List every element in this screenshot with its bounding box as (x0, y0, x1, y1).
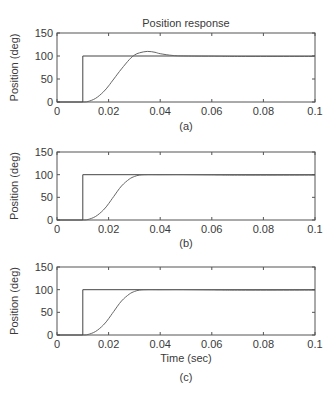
x-tick-label: 0.1 (307, 338, 322, 350)
x-tick-label: 0.04 (149, 338, 170, 350)
x-tick-label: 0.04 (149, 223, 170, 235)
y-axis-label: Position (deg) (8, 152, 20, 220)
caption-a: (a) (179, 120, 192, 132)
y-tick-label: 100 (35, 169, 53, 181)
response-curve (83, 290, 315, 335)
y-tick-label: 100 (35, 284, 53, 296)
y-tick-label: 50 (41, 73, 53, 85)
panel-b: 00.020.040.060.080.1050100150Position (d… (8, 146, 323, 235)
x-tick-label: 0.02 (98, 105, 119, 117)
panel-c: 00.020.040.060.080.1050100150Position (d… (8, 261, 323, 350)
x-tick-label: 0.02 (98, 223, 119, 235)
x-tick-label: 0.08 (253, 105, 274, 117)
x-tick-label: 0.1 (307, 105, 322, 117)
x-tick-label: 0.1 (307, 223, 322, 235)
y-axis-label: Position (deg) (8, 34, 20, 102)
x-tick-label: 0.02 (98, 338, 119, 350)
response-curve (83, 51, 315, 102)
x-tick-label: 0.06 (201, 105, 222, 117)
reference-step-line (57, 56, 315, 102)
reference-step-line (57, 290, 315, 335)
y-axis-label: Position (deg) (8, 267, 20, 335)
x-tick-label: 0.06 (201, 223, 222, 235)
caption-c: (c) (180, 371, 193, 383)
x-tick-label: 0 (54, 223, 60, 235)
response-curve (83, 175, 315, 220)
x-tick-label: 0 (54, 105, 60, 117)
y-tick-label: 0 (47, 214, 53, 226)
y-tick-label: 100 (35, 50, 53, 62)
axes-frame (57, 267, 315, 335)
chart-title: Position response (142, 17, 229, 29)
axes-frame (57, 33, 315, 102)
x-tick-label: 0.06 (201, 338, 222, 350)
x-tick-label: 0 (54, 338, 60, 350)
y-tick-label: 150 (35, 261, 53, 273)
y-tick-label: 150 (35, 146, 53, 158)
figure: Position response 00.020.040.060.080.105… (0, 0, 336, 397)
axes-frame (57, 152, 315, 220)
x-tick-label: 0.08 (253, 223, 274, 235)
x-tick-label: 0.08 (253, 338, 274, 350)
caption-b: (b) (179, 237, 192, 249)
y-tick-label: 150 (35, 27, 53, 39)
y-tick-label: 0 (47, 96, 53, 108)
reference-step-line (57, 175, 315, 220)
x-axis-label: Time (sec) (160, 352, 212, 364)
y-tick-label: 50 (41, 191, 53, 203)
x-tick-label: 0.04 (149, 105, 170, 117)
y-tick-label: 50 (41, 306, 53, 318)
y-tick-label: 0 (47, 329, 53, 341)
panel-a: 00.020.040.060.080.1050100150Position (d… (8, 27, 323, 117)
